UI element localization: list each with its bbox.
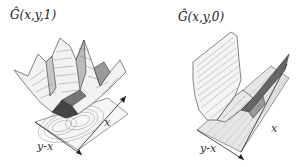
surface-plot-left <box>0 0 153 167</box>
axis-label-diagonal: y-x <box>200 142 216 155</box>
axis-label-x: x <box>104 116 110 129</box>
panel-g-t0: Ĝ(x,y,0) x y-x <box>153 0 306 167</box>
surface-plot-right <box>153 0 306 167</box>
axis-label-diagonal: y-x <box>37 140 53 153</box>
axis-label-x: x <box>271 122 277 135</box>
panel-g-t1: Ĝ(x,y,1) <box>0 0 153 167</box>
